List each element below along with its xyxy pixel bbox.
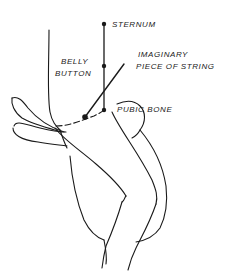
sternum-label: STERNUM (112, 20, 156, 30)
shin-back (128, 204, 156, 270)
leg-back (136, 130, 167, 242)
knee (122, 196, 126, 202)
saddle-cantle (12, 97, 64, 132)
calf-back (70, 156, 104, 240)
line-drawing (0, 0, 230, 279)
string-label-line2: PIECE OF STRING (136, 62, 215, 72)
sternum-point (102, 22, 106, 26)
thigh-bottom (55, 128, 126, 196)
pubic-bone-point (102, 108, 106, 112)
belly-button-label-line2: BUTTON (55, 69, 91, 79)
string-end-point (82, 114, 88, 120)
string-label-line1: IMAGINARY (138, 50, 188, 60)
thigh-top (112, 112, 157, 204)
belly-button-label-line1: BELLY (61, 57, 88, 67)
shin-front (102, 202, 122, 268)
pelvis-dashed-line (56, 110, 104, 126)
pubic-bone-label: PUBIC BONE (117, 105, 172, 115)
belly-button-point (102, 64, 106, 68)
torso-back-line (48, 30, 60, 130)
rider-posture-diagram: STERNUM BELLY BUTTON IMAGINARY PIECE OF … (0, 0, 230, 279)
